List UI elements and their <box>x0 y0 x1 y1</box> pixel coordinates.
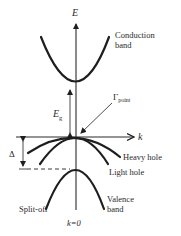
energy-axis: E <box>71 7 78 210</box>
split-off-label: Split-off <box>19 204 48 214</box>
spin-orbit-symbol: Δ <box>9 149 15 159</box>
band-gap-subscript: g <box>59 114 63 121</box>
k-axis-label: k <box>138 131 143 142</box>
svg-text:Eg: Eg <box>52 108 63 121</box>
gamma-subscript: point <box>118 97 131 103</box>
conduction-band: Conduction band <box>41 30 155 82</box>
heavy-hole-curve <box>28 138 120 157</box>
gamma-point-indicator: Γpoint <box>81 92 131 133</box>
valence-band-label-line2: band <box>107 204 124 214</box>
split-off-band: Split-off <box>19 170 104 214</box>
split-off-curve <box>46 170 104 209</box>
band-structure-diagram: E k k=0 Conduction band Eg Γpoint Heavy … <box>0 0 181 236</box>
conduction-band-label-line2: band <box>115 40 132 50</box>
energy-axis-label: E <box>71 7 78 18</box>
band-gap-indicator: Eg <box>52 90 70 133</box>
light-hole-label: Light hole <box>109 167 144 177</box>
heavy-hole-label: Heavy hole <box>123 152 162 162</box>
gamma-point-arrow <box>81 103 112 133</box>
band-gap-symbol: E <box>52 108 59 119</box>
valence-band-label-line1: Valence <box>107 194 134 204</box>
k-zero-label: k=0 <box>67 218 82 228</box>
svg-text:Γpoint: Γpoint <box>113 92 131 103</box>
conduction-band-label-line1: Conduction <box>115 30 155 40</box>
valence-band-label: Valence band <box>107 194 134 214</box>
conduction-band-curve <box>41 37 109 82</box>
